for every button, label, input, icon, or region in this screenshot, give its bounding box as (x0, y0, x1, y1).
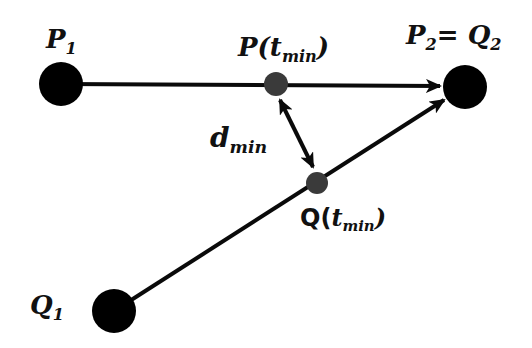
point-p-tmin (264, 72, 288, 96)
label-dmin: dmin (210, 124, 267, 156)
point-p1 (39, 62, 83, 106)
label-p2-q2: P2= Q2 (406, 22, 502, 53)
label-q1-sub: 1 (53, 305, 64, 324)
label-qt-t: t (331, 203, 342, 232)
label-p1: P1 (46, 26, 77, 57)
label-qt-close: ) (375, 203, 386, 232)
label-dmin-base: d (210, 121, 230, 154)
point-p2-q2 (443, 65, 487, 109)
label-pt-close: ) (317, 32, 329, 62)
label-qt-base: Q (300, 204, 320, 232)
label-pt-sub: min (282, 47, 317, 66)
label-q1: Q1 (30, 292, 64, 323)
label-q2-sub: 2 (490, 35, 501, 54)
point-q1 (92, 289, 136, 333)
segment-p1-p2 (61, 84, 440, 86)
label-pt-t: t (270, 32, 282, 62)
label-qt-open: ( (320, 204, 331, 232)
label-q1-base: Q (30, 290, 53, 320)
dmin-arrow (280, 100, 313, 167)
label-p2-base: P (406, 20, 426, 50)
label-qt-sub: min (342, 217, 374, 235)
label-p1-base: P (46, 24, 66, 54)
point-q-tmin (306, 172, 328, 194)
label-dmin-sub: min (230, 137, 268, 157)
label-p2-sub: 2 (426, 35, 437, 54)
label-p-tmin: P(tmin) (238, 34, 329, 65)
label-pt-base: P( (238, 32, 270, 62)
label-q-tmin: Q(tmin) (300, 206, 386, 234)
label-q2-base: Q (468, 20, 491, 50)
label-p1-sub: 1 (66, 39, 77, 58)
segment-q1-q2 (114, 100, 444, 311)
label-equals: = (437, 20, 468, 50)
